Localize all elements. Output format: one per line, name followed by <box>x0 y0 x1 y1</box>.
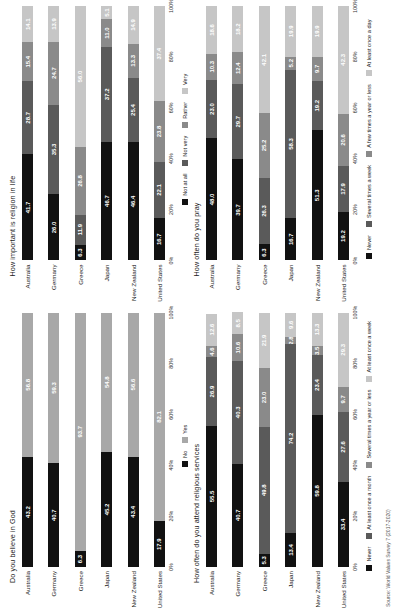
category-label: Germany <box>234 261 241 303</box>
bar-segment: 13.4 <box>285 533 296 567</box>
bar-value-label: 19.2 <box>340 230 346 242</box>
bar-segment: 35.3 <box>48 105 59 195</box>
bar-value-label: 5.1 <box>104 8 110 16</box>
panel-believe-in-god: Do you believe in God Australia43.256.8G… <box>8 313 188 610</box>
legend-swatch-icon <box>366 462 372 468</box>
legend-label: Not at all <box>182 174 188 196</box>
bar-segment: 2.8 <box>285 337 296 344</box>
bar-value-label: 9.7 <box>340 395 346 403</box>
bar-segment: 3.5 <box>312 346 323 355</box>
legend-item[interactable]: Several times a year or less <box>366 390 372 468</box>
axis-tick: 40% <box>168 460 174 471</box>
stacked-bar: 40.740.310.68.5 <box>232 313 243 568</box>
bar-value-label: 23.8 <box>156 126 162 138</box>
bar-value-label: 26.0 <box>51 222 57 234</box>
figure-canvas: Do you believe in God Australia43.256.8G… <box>0 0 393 615</box>
bar-segment: 19.2 <box>312 81 323 130</box>
bar-segment: 59.3 <box>48 313 59 464</box>
legend-item[interactable]: Several times a week <box>366 165 372 227</box>
chart-grid: Do you believe in God Australia43.256.8G… <box>8 6 372 609</box>
legend-item[interactable]: Rather <box>182 102 188 128</box>
legend-item[interactable]: Not at all <box>182 174 188 205</box>
category-label: Australia <box>208 261 215 303</box>
bar-value-label: 46.4 <box>130 196 136 208</box>
bar-value-label: 19.9 <box>314 25 320 37</box>
bar-value-label: 20.6 <box>340 134 346 146</box>
axis-tick: 0% <box>168 257 174 265</box>
legend-item[interactable]: Not very <box>182 136 188 166</box>
legend-item[interactable]: At least once a month <box>366 476 372 539</box>
axis-tick: 40% <box>352 460 358 471</box>
bar-segment: 93.7 <box>75 313 86 551</box>
bar-value-label: 11.0 <box>104 27 110 38</box>
bar-segment: 24.7 <box>48 42 59 105</box>
bar-row: New Zealand46.425.413.314.9 <box>127 6 140 303</box>
bar-segment: 25.4 <box>128 78 139 143</box>
bar-value-label: 74.2 <box>288 433 294 445</box>
stacked-bar: 46.425.413.314.9 <box>128 6 139 261</box>
stacked-bar: 6.311.926.856.0 <box>75 6 86 261</box>
legend-label: Yes <box>182 425 188 434</box>
bar-value-label: 17.9 <box>340 183 346 195</box>
bar-value-label: 11.9 <box>77 224 83 235</box>
bar-segment: 59.8 <box>312 415 323 567</box>
stacked-bar: 16.758.35.219.9 <box>285 6 296 261</box>
bar-value-label: 25.4 <box>130 104 136 116</box>
bar-value-label: 39.7 <box>235 204 241 216</box>
bar-value-label: 13.3 <box>314 324 320 336</box>
legend-label: At least once a month <box>366 476 372 530</box>
bar-segment: 5.1 <box>101 6 112 19</box>
legend-item[interactable]: At least once a day <box>366 20 372 77</box>
legend-label: At least once a day <box>366 20 372 68</box>
legend-item[interactable]: At least once a week <box>366 321 372 382</box>
legend-item[interactable]: Very <box>182 74 188 94</box>
bar-value-label: 43.4 <box>130 506 136 518</box>
axis-ticks: 0%20%40%60%80%100% <box>352 313 361 568</box>
axis-tick: 0% <box>352 563 358 571</box>
bar-value-label: 42.1 <box>261 54 267 66</box>
bar-segment: 54.8 <box>101 313 112 452</box>
bar-row: United States33.427.69.729.3 <box>337 313 350 610</box>
legend-item[interactable]: Yes <box>182 425 188 443</box>
legend-swatch-icon <box>182 88 188 94</box>
stacked-bar: 26.035.324.713.9 <box>48 6 59 261</box>
bar-segment: 5.3 <box>259 554 270 567</box>
category-label: Greece <box>261 261 268 303</box>
legend-swatch-icon <box>182 122 188 128</box>
bar-row: Greece6.311.926.856.0 <box>74 6 87 303</box>
axis-ticks: 0%20%40%60%80%100% <box>168 6 177 261</box>
bar-segment: 29.3 <box>338 313 349 388</box>
bar-value-label: 23.4 <box>314 379 320 391</box>
category-label: United States <box>340 261 347 303</box>
chart-title: How often do you pray <box>192 6 201 277</box>
bar-segment: 26.9 <box>206 357 217 425</box>
bar-segment: 19.2 <box>338 212 349 261</box>
bar-segment: 43.4 <box>128 457 139 567</box>
bar-rows: Australia41.728.715.414.1Germany26.035.3… <box>21 6 166 303</box>
bar-segment: 56.0 <box>75 6 86 147</box>
bar-value-label: 16.7 <box>288 233 294 245</box>
bar-row: Germany39.729.712.418.2 <box>231 6 244 303</box>
bar-value-label: 45.2 <box>104 504 110 516</box>
axis-spacer <box>168 261 177 303</box>
bar-segment: 16.7 <box>154 218 165 261</box>
legend-item[interactable]: Never <box>366 547 372 571</box>
legend-item[interactable]: A few times a year or less <box>366 84 372 157</box>
x-axis: 0%20%40%60%80%100% <box>168 313 177 610</box>
legend-item[interactable]: Never <box>366 235 372 259</box>
category-label: New Zealand <box>314 567 321 609</box>
bar-value-label: 12.6 <box>209 324 215 336</box>
bar-segment: 5.2 <box>285 57 296 70</box>
bar-row: Australia43.256.8 <box>21 313 34 610</box>
stacked-bar: 19.217.920.642.3 <box>338 6 349 261</box>
chart-title: How important is religion in life <box>8 6 17 277</box>
axis-tick: 0% <box>168 563 174 571</box>
bar-value-label: 56.6 <box>130 379 136 391</box>
category-label: Japan <box>103 567 110 609</box>
legend-swatch-icon <box>366 376 372 382</box>
axis-tick: 80% <box>168 52 174 63</box>
legend-item[interactable]: No <box>182 451 188 467</box>
bar-value-label: 19.2 <box>314 100 320 112</box>
bar-value-label: 6.3 <box>77 248 83 256</box>
category-label: Greece <box>77 567 84 609</box>
